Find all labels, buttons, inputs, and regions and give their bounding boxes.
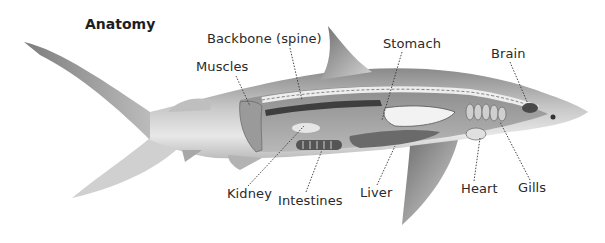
dorsal-fin — [320, 26, 372, 80]
label-brain: Brain — [491, 47, 526, 61]
label-liver: Liver — [360, 186, 392, 200]
label-gills: Gills — [518, 181, 546, 195]
kidney-lobe — [292, 123, 320, 133]
label-stomach: Stomach — [383, 37, 441, 51]
anal-fin — [182, 150, 202, 162]
label-heart: Heart — [461, 182, 498, 196]
diagram-title: Anatomy — [85, 17, 155, 32]
eye — [551, 115, 556, 120]
label-kidney: Kidney — [227, 187, 272, 201]
label-intestines: Intestines — [278, 194, 343, 208]
anatomy-diagram: Anatomy Backbone (spine) Muscles Stomach… — [0, 0, 605, 243]
second-dorsal-fin — [168, 99, 212, 113]
heart — [466, 128, 486, 140]
label-backbone: Backbone (spine) — [207, 32, 322, 46]
brain — [522, 103, 538, 113]
label-muscles: Muscles — [196, 60, 248, 74]
pectoral-fin — [402, 140, 458, 225]
